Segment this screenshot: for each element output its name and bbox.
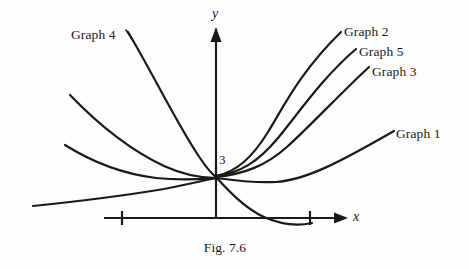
curve-graph-1 bbox=[216, 131, 394, 182]
axes-group bbox=[104, 27, 348, 225]
curves-group bbox=[33, 32, 394, 225]
y-intercept-label: 3 bbox=[219, 152, 226, 168]
y-axis-label: y bbox=[212, 6, 218, 22]
curve-label-graph-5: Graph 5 bbox=[359, 44, 404, 60]
figure-caption: Fig. 7.6 bbox=[0, 240, 450, 256]
figure-7-6: y x 3 Graph 4 Graph 2 Graph 5 Graph 3 Gr… bbox=[0, 0, 469, 269]
curve-left-lower bbox=[65, 145, 216, 180]
curve-left-upper bbox=[70, 95, 216, 178]
curve-label-graph-2: Graph 2 bbox=[344, 24, 389, 40]
curve-left-shallow bbox=[33, 178, 216, 206]
curve-label-graph-1: Graph 1 bbox=[396, 126, 441, 142]
leader-lines-group bbox=[126, 30, 134, 42]
curve-label-graph-4: Graph 4 bbox=[71, 27, 116, 43]
curve-label-graph-3: Graph 3 bbox=[372, 64, 417, 80]
x-axis-arrowhead bbox=[334, 213, 348, 224]
curve-graph-3 bbox=[216, 67, 369, 177]
x-axis-label: x bbox=[353, 209, 359, 225]
y-axis-arrowhead bbox=[211, 27, 222, 42]
curve-graph-5 bbox=[216, 49, 356, 176]
curve-graph-4 bbox=[128, 32, 312, 225]
leader-line-graph-4 bbox=[126, 30, 134, 42]
